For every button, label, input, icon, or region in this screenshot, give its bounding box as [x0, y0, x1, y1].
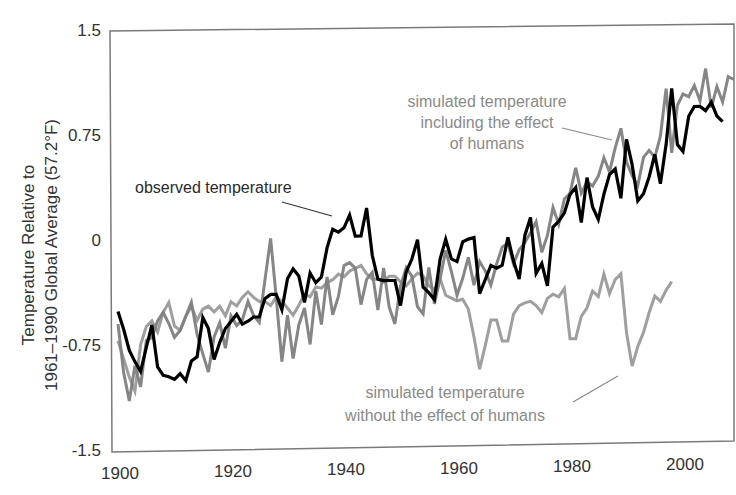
annotation-without-humans-line2: without the effect of humans	[344, 407, 545, 424]
annotation-with-humans-leader	[562, 128, 612, 140]
annotation-without-humans-leader	[573, 376, 618, 402]
annotation-observed-leader	[282, 202, 332, 216]
observed-series	[118, 89, 723, 381]
annotation-observed: observed temperature	[135, 179, 332, 216]
x-tick-label: 1900	[101, 464, 139, 483]
x-tick-label: 1960	[440, 459, 478, 478]
x-tick-label: 1980	[553, 457, 591, 476]
x-tick-label: 1920	[214, 462, 252, 481]
temperature-chart: 1.50.750-0.75-1.5 1900192019401960198020…	[0, 0, 736, 495]
annotation-with-humans-line1: simulated temperature	[407, 93, 566, 110]
annotation-with-humans: simulated temperature including the effe…	[407, 93, 612, 152]
y-axis-label: Temperature Relative to 1961–1990 Global…	[19, 119, 61, 391]
y-tick-label: 1.5	[77, 21, 101, 40]
y-tick-label: -0.75	[62, 336, 101, 355]
y-tick-label: 0.75	[68, 126, 101, 145]
y-axis-label-line2: 1961–1990 Global Average (57.2°F)	[42, 119, 61, 391]
y-tick-label: 0	[92, 231, 101, 250]
annotation-observed-text: observed temperature	[135, 179, 292, 196]
y-tick-label: -1.5	[72, 441, 101, 460]
x-axis-ticks: 190019201940196019802000	[101, 455, 704, 483]
x-tick-label: 1940	[327, 460, 365, 479]
annotation-with-humans-line3: of humans	[450, 135, 525, 152]
x-tick-label: 2000	[666, 455, 704, 474]
annotation-with-humans-line2: including the effect	[420, 114, 554, 131]
y-axis-label-line1: Temperature Relative to	[19, 165, 38, 345]
annotation-without-humans-line1: simulated temperature	[365, 384, 524, 401]
annotation-without-humans: simulated temperature without the effect…	[344, 376, 618, 424]
y-axis-ticks: 1.50.750-0.75-1.5	[62, 21, 101, 460]
